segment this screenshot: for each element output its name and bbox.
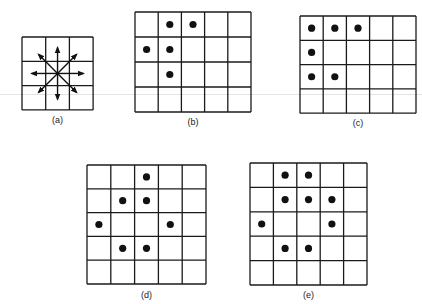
dot-marker [282, 172, 289, 179]
panel-label-b: (b) [163, 117, 223, 127]
dot-marker [354, 25, 361, 32]
dot-marker [305, 245, 312, 252]
dot-marker [328, 196, 335, 203]
dot-marker [308, 49, 315, 56]
dot-marker [119, 245, 126, 252]
grid-e [250, 163, 369, 287]
dot-marker [119, 197, 126, 204]
dot-marker [167, 221, 174, 228]
dot-marker [166, 46, 173, 53]
panel-a [22, 37, 93, 110]
dot-marker [308, 25, 315, 32]
dot-marker [143, 46, 150, 53]
dot-marker [331, 25, 338, 32]
panel-c [300, 16, 416, 113]
arrow-nw-icon [38, 54, 57, 73]
dot-marker [143, 173, 150, 180]
dot-marker [328, 220, 335, 227]
panel-label-e: (e) [279, 290, 339, 300]
panel-d [87, 165, 206, 284]
dot-marker [166, 71, 173, 78]
grid-d [87, 165, 208, 286]
arrow-se-icon [58, 73, 77, 92]
dot-marker [95, 221, 102, 228]
dot-marker [305, 196, 312, 203]
dot-marker [143, 197, 150, 204]
dot-marker [282, 196, 289, 203]
dot-marker [282, 245, 289, 252]
dot-marker [258, 220, 265, 227]
dot-marker [331, 73, 338, 80]
grid-a [22, 37, 95, 112]
panel-e [250, 163, 367, 285]
panel-b [135, 12, 251, 112]
dot-marker [189, 21, 196, 28]
dot-marker [143, 245, 150, 252]
panel-label-a: (a) [28, 115, 88, 125]
panel-label-d: (d) [117, 290, 177, 300]
grid-b [135, 12, 253, 114]
dot-marker [166, 21, 173, 28]
arrow-ne-icon [58, 54, 77, 73]
arrow-sw-icon [38, 73, 57, 92]
panel-label-c: (c) [328, 118, 388, 128]
dot-marker [305, 172, 312, 179]
dot-marker [308, 73, 315, 80]
grid-c [300, 16, 418, 115]
